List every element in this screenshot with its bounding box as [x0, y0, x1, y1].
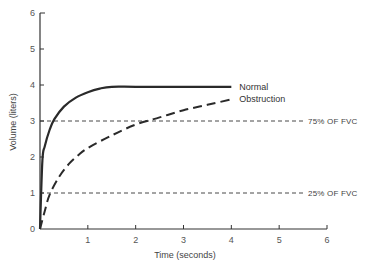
series-label-obstruction: Obstruction [239, 94, 285, 104]
x-axis-title: Time (seconds) [154, 250, 216, 260]
y-axis-title: Volume (liters) [8, 93, 18, 151]
y-tick-label: 3 [30, 116, 35, 126]
x-tick-label: 4 [229, 235, 234, 245]
series-line-normal [40, 87, 231, 229]
series-label-normal: Normal [239, 82, 268, 92]
x-tick-label: 2 [133, 235, 138, 245]
y-tick-label: 2 [30, 152, 35, 162]
y-tick-label: 6 [30, 8, 35, 18]
x-tick-label: 3 [181, 235, 186, 245]
x-tick-label: 1 [85, 235, 90, 245]
x-tick-label: 5 [277, 235, 282, 245]
series-line-obstruction [40, 99, 231, 229]
x-ticks: 123456 [85, 225, 329, 245]
y-tick-label: 1 [30, 188, 35, 198]
x-tick-label: 6 [324, 235, 329, 245]
series-lines [40, 87, 231, 229]
series-labels: NormalObstruction [239, 82, 285, 105]
reference-lines: 75% OF FVC25% OF FVC [40, 117, 358, 198]
y-tick-label: 4 [30, 80, 35, 90]
fvc-chart: 0123456 123456 75% OF FVC25% OF FVC Norm… [0, 0, 371, 265]
reference-line-label: 75% OF FVC [308, 117, 358, 126]
y-tick-label: 5 [30, 44, 35, 54]
y-tick-label: 0 [30, 224, 35, 234]
reference-line-label: 25% OF FVC [308, 189, 358, 198]
